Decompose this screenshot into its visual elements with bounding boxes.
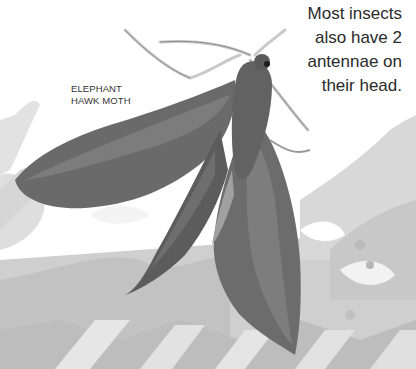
specimen-label: ELEPHANT HAWK MOTH: [71, 83, 131, 107]
caption-line: Most insects: [242, 2, 402, 26]
specimen-label-line: ELEPHANT: [71, 83, 131, 95]
caption-line: their head.: [242, 74, 402, 98]
illustration-stage: ELEPHANT HAWK MOTH Most insects also hav…: [0, 0, 416, 369]
specimen-label-line: HAWK MOTH: [71, 95, 131, 107]
caption-text: Most insects also have 2 antennae on the…: [242, 2, 402, 98]
caption-line: also have 2: [242, 26, 402, 50]
caption-line: antennae on: [242, 50, 402, 74]
